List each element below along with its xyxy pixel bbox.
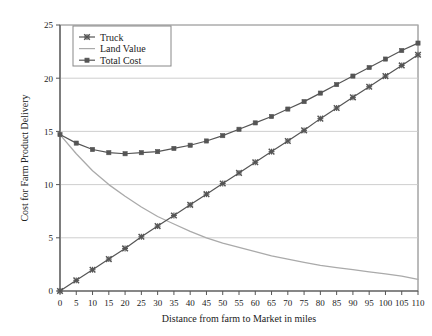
x-tick-label: 50 bbox=[218, 298, 228, 308]
x-tick-label: 65 bbox=[267, 298, 277, 308]
chart-legend[interactable]: TruckLand ValueTotal Cost bbox=[73, 26, 171, 66]
y-tick-label: 25 bbox=[44, 20, 54, 30]
legend-item-label: Truck bbox=[100, 32, 124, 43]
x-tick-label: 95 bbox=[365, 298, 375, 308]
x-tick-label: 90 bbox=[348, 298, 358, 308]
y-axis-title: Cost for Farm Product Delivery bbox=[19, 94, 30, 221]
y-tick-label: 5 bbox=[49, 233, 54, 243]
x-tick-label: 10 bbox=[88, 298, 98, 308]
y-tick-label: 20 bbox=[44, 74, 54, 84]
legend-item-label: Total Cost bbox=[100, 55, 141, 66]
x-tick-labels: 0510152025303540455055606570758085909510… bbox=[58, 298, 425, 308]
x-tick-label: 85 bbox=[332, 298, 342, 308]
x-tick-label: 75 bbox=[300, 298, 310, 308]
y-tick-label: 0 bbox=[49, 286, 54, 296]
chart-figure: 0510152025 05101520253035404550556065707… bbox=[0, 0, 432, 336]
chart-background bbox=[0, 0, 432, 336]
x-tick-label: 25 bbox=[137, 298, 147, 308]
x-tick-label: 30 bbox=[153, 298, 163, 308]
x-tick-label: 60 bbox=[251, 298, 261, 308]
x-axis-title: Distance from farm to Market in miles bbox=[162, 313, 317, 324]
x-tick-label: 70 bbox=[283, 298, 293, 308]
y-tick-label: 10 bbox=[44, 180, 54, 190]
x-tick-label: 55 bbox=[235, 298, 245, 308]
x-tick-label: 105 bbox=[395, 298, 409, 308]
x-tick-label: 35 bbox=[169, 298, 179, 308]
x-tick-label: 0 bbox=[58, 298, 63, 308]
x-tick-label: 80 bbox=[316, 298, 326, 308]
x-tick-label: 110 bbox=[411, 298, 425, 308]
x-tick-label: 15 bbox=[104, 298, 114, 308]
x-tick-label: 100 bbox=[379, 298, 393, 308]
x-tick-label: 45 bbox=[202, 298, 212, 308]
x-tick-label: 5 bbox=[74, 298, 79, 308]
x-tick-label: 40 bbox=[186, 298, 196, 308]
x-tick-label: 20 bbox=[121, 298, 131, 308]
y-tick-label: 15 bbox=[44, 127, 54, 137]
legend-item-label: Land Value bbox=[100, 43, 146, 54]
